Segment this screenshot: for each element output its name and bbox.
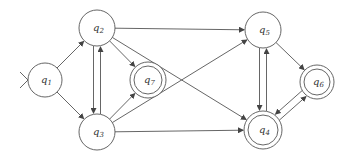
automaton-diagram: q1q2q3q7q5q4q6 bbox=[0, 0, 352, 162]
edge-q4-to-q6 bbox=[280, 97, 306, 120]
state-q2: q2 bbox=[79, 10, 115, 46]
diagram-svg: q1q2q3q7q5q4q6 bbox=[0, 0, 352, 162]
start-state-marker bbox=[20, 72, 28, 88]
state-q4: q4 bbox=[244, 111, 282, 149]
state-q1: q1 bbox=[28, 63, 62, 97]
edge-q2-to-q5 bbox=[115, 28, 244, 30]
edge-q5-to-q6 bbox=[276, 43, 304, 70]
edge-q1-to-q3 bbox=[57, 92, 84, 119]
state-q6: q6 bbox=[300, 65, 334, 99]
edge-q6-to-q4 bbox=[276, 91, 302, 114]
edge-q3-to-q7 bbox=[110, 94, 135, 120]
edge-q1-to-q2 bbox=[57, 41, 84, 68]
edge-q3-to-q4 bbox=[115, 130, 243, 132]
edge-q2-to-q7 bbox=[110, 41, 135, 67]
start-arrow-icon bbox=[20, 72, 28, 88]
state-q5: q5 bbox=[245, 12, 281, 48]
state-q3: q3 bbox=[79, 114, 115, 150]
state-q7: q7 bbox=[130, 62, 166, 98]
